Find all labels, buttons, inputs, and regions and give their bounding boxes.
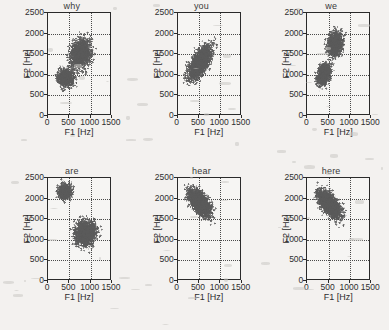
- formant-scatter-figure: why05001000150020002500050010001500F1 [H…: [0, 0, 389, 330]
- y-tick-mark: [44, 198, 47, 199]
- y-tick-mark: [303, 259, 306, 260]
- x-tick-label: 1000: [210, 282, 229, 292]
- panel-title: are: [0, 166, 130, 176]
- panel-why: why05001000150020002500050010001500F1 [H…: [0, 0, 130, 165]
- y-axis-label: F2 [Hz]: [22, 34, 32, 94]
- y-tick-mark: [174, 94, 177, 95]
- panel-here: here05001000150020002500050010001500F1 […: [259, 165, 389, 330]
- x-tick-label: 0: [304, 117, 309, 127]
- y-tick-mark: [174, 259, 177, 260]
- scatter-points: [307, 178, 370, 280]
- y-axis-label: F2 [Hz]: [281, 34, 291, 94]
- axes-box: [306, 12, 370, 115]
- x-tick-label: 1500: [361, 117, 380, 127]
- y-tick-mark: [303, 33, 306, 34]
- y-tick-label: 2500: [284, 172, 303, 182]
- scatter-points: [178, 13, 241, 115]
- y-tick-mark: [44, 12, 47, 13]
- x-tick-label: 0: [45, 117, 50, 127]
- y-tick-label: 2500: [284, 7, 303, 17]
- y-tick-label: 500: [289, 254, 303, 264]
- y-tick-label: 2500: [155, 172, 174, 182]
- axes-box: [177, 177, 241, 280]
- x-tick-label: 500: [321, 282, 335, 292]
- y-tick-mark: [44, 74, 47, 75]
- x-tick-label: 0: [45, 282, 50, 292]
- y-tick-mark: [44, 259, 47, 260]
- y-tick-label: 0: [169, 110, 174, 120]
- panel-title: you: [130, 1, 260, 11]
- y-tick-mark: [174, 239, 177, 240]
- axes-box: [306, 177, 370, 280]
- y-tick-mark: [174, 177, 177, 178]
- y-tick-mark: [303, 198, 306, 199]
- y-tick-mark: [44, 33, 47, 34]
- y-tick-mark: [303, 94, 306, 95]
- scatter-points: [307, 13, 370, 115]
- x-tick-label: 500: [61, 117, 75, 127]
- y-tick-label: 500: [289, 89, 303, 99]
- plot-area: 05001000150020002500050010001500F1 [Hz]F…: [47, 12, 111, 115]
- panel-title: why: [0, 1, 130, 11]
- y-axis-label: F2 [Hz]: [152, 34, 162, 94]
- x-tick-label: 1500: [102, 282, 121, 292]
- y-axis-label: F2 [Hz]: [281, 199, 291, 259]
- y-tick-mark: [44, 94, 47, 95]
- x-tick-label: 500: [321, 117, 335, 127]
- x-tick-label: 1500: [361, 282, 380, 292]
- panel-you: you05001000150020002500050010001500F1 [H…: [130, 0, 260, 165]
- axes-box: [177, 12, 241, 115]
- y-tick-label: 0: [169, 275, 174, 285]
- y-tick-mark: [44, 53, 47, 54]
- y-axis-label: F2 [Hz]: [152, 199, 162, 259]
- y-tick-mark: [174, 53, 177, 54]
- plot-area: 05001000150020002500050010001500F1 [Hz]F…: [47, 177, 111, 280]
- y-tick-label: 0: [39, 275, 44, 285]
- x-tick-label: 0: [174, 117, 179, 127]
- panel-hear: hear05001000150020002500050010001500F1 […: [130, 165, 260, 330]
- x-tick-label: 1500: [102, 117, 121, 127]
- y-tick-label: 0: [299, 275, 304, 285]
- y-tick-mark: [174, 33, 177, 34]
- x-axis-label: F1 [Hz]: [306, 292, 370, 302]
- y-tick-mark: [44, 177, 47, 178]
- x-tick-label: 500: [191, 117, 205, 127]
- x-tick-label: 1500: [231, 282, 250, 292]
- plot-area: 05001000150020002500050010001500F1 [Hz]F…: [306, 12, 370, 115]
- scatter-points: [48, 13, 111, 115]
- y-tick-mark: [303, 53, 306, 54]
- scatter-points: [48, 178, 111, 280]
- x-tick-label: 1000: [80, 282, 99, 292]
- x-tick-label: 0: [304, 282, 309, 292]
- y-tick-mark: [174, 198, 177, 199]
- y-tick-label: 2500: [155, 7, 174, 17]
- y-tick-mark: [174, 74, 177, 75]
- panel-we: we05001000150020002500050010001500F1 [Hz…: [259, 0, 389, 165]
- y-tick-label: 2500: [25, 7, 44, 17]
- y-tick-label: 0: [39, 110, 44, 120]
- x-axis-label: F1 [Hz]: [306, 127, 370, 137]
- y-tick-mark: [174, 12, 177, 13]
- x-tick-label: 0: [174, 282, 179, 292]
- x-axis-label: F1 [Hz]: [47, 127, 111, 137]
- panel-title: here: [259, 166, 389, 176]
- x-tick-label: 1000: [340, 117, 359, 127]
- y-tick-mark: [44, 218, 47, 219]
- y-tick-mark: [303, 12, 306, 13]
- y-tick-label: 2500: [25, 172, 44, 182]
- y-tick-mark: [303, 239, 306, 240]
- y-tick-mark: [174, 218, 177, 219]
- y-tick-mark: [303, 177, 306, 178]
- x-tick-label: 500: [61, 282, 75, 292]
- x-axis-label: F1 [Hz]: [47, 292, 111, 302]
- x-tick-label: 1500: [231, 117, 250, 127]
- panel-title: we: [259, 1, 389, 11]
- panel-are: are05001000150020002500050010001500F1 [H…: [0, 165, 130, 330]
- x-tick-label: 1000: [210, 117, 229, 127]
- x-axis-label: F1 [Hz]: [177, 127, 241, 137]
- plot-area: 05001000150020002500050010001500F1 [Hz]F…: [177, 177, 241, 280]
- x-tick-label: 1000: [340, 282, 359, 292]
- plot-area: 05001000150020002500050010001500F1 [Hz]F…: [177, 12, 241, 115]
- x-tick-label: 1000: [80, 117, 99, 127]
- axes-box: [47, 12, 111, 115]
